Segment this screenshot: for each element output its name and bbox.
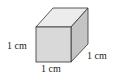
cube-front-face — [36, 27, 71, 62]
left-edge-label: 1 cm — [7, 41, 27, 51]
bottom-edge-label: 1 cm — [41, 64, 61, 74]
right-edge-label: 1 cm — [87, 51, 107, 61]
